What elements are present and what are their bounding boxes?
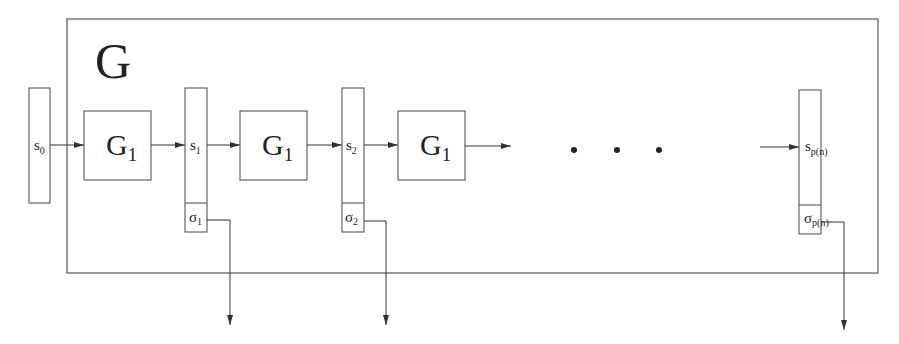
state-s2-label: s2 xyxy=(346,137,357,156)
outer-generator-label: G xyxy=(95,33,131,89)
output-sigma2-label: σ2 xyxy=(345,209,358,227)
state-s1-label: s1 xyxy=(190,137,201,156)
g1-block-3-label: G1 xyxy=(420,128,451,165)
output-sigma-p-label: σp(n) xyxy=(804,210,829,229)
ellipsis-dot xyxy=(571,147,577,153)
state-sp-label: sp(n) xyxy=(805,138,828,158)
ellipsis-dots xyxy=(571,147,662,153)
g1-block-1-label: G1 xyxy=(106,128,137,165)
ellipsis-dot xyxy=(656,147,662,153)
generator-diagram: G s0 G1 s1 σ1 G1 s2 σ2 G1 sp(n) σp(n) xyxy=(0,0,899,344)
ellipsis-dot xyxy=(614,147,620,153)
g1-block-2-label: G1 xyxy=(262,128,293,165)
output-sigma1-label: σ1 xyxy=(189,209,202,227)
output-sigma-p-arrow xyxy=(821,222,844,330)
state-s0-label: s0 xyxy=(34,137,45,156)
